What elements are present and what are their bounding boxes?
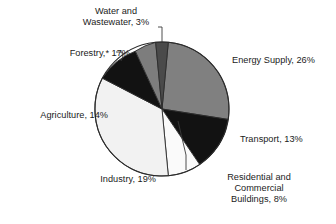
pie-chart-figure: Water and Wastewater, 3% Forestry,* 17% … — [0, 0, 336, 224]
pie-label-water-and-wastewater: Water and Wastewater, 3% — [58, 6, 174, 28]
pie-label-transport: Transport, 13% — [240, 134, 336, 145]
pie-label-energy-supply: Energy Supply, 26% — [232, 55, 336, 66]
pie-label-residential-commercial-buildings: Residential and Commercial Buildings, 8% — [204, 172, 314, 206]
leader-line-water-and-wastewater — [158, 27, 162, 43]
pie-label-industry: Industry, 19% — [48, 174, 156, 185]
pie-slice-energy-supply[interactable] — [162, 42, 229, 119]
pie-label-forestry: Forestry,* 17% — [14, 48, 130, 59]
pie-label-agriculture: Agriculture, 14% — [0, 110, 108, 121]
